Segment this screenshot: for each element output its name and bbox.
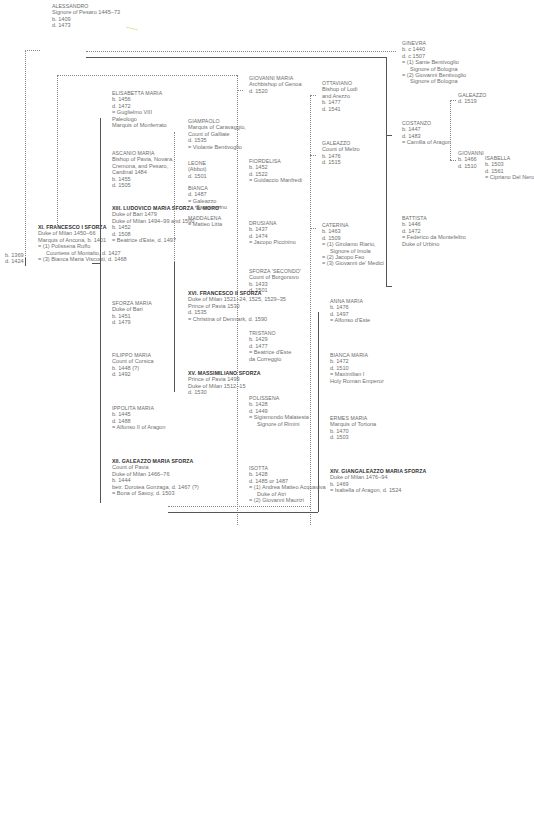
node-costanzo: COSTANZO b. 1447 d. 1483 = Camilla of Ar… xyxy=(402,120,451,146)
spouse: = (1) Andrea Matteo Acquaviva xyxy=(249,484,326,490)
node-elisabetta: ELISABETTA MARIA b. 1456 d. 1472 = Gugli… xyxy=(112,90,167,128)
spouse: Sanseverino xyxy=(188,204,227,210)
node-leone: LEONE (Abbot) d. 1501 xyxy=(188,160,207,179)
node-ascanio: ASCANIO MARIA Bishop of Pavia, Novara, C… xyxy=(112,150,174,188)
node-sforza-maria: SFORZA MARIA Duke of Bari b. 1451 d. 147… xyxy=(112,300,152,326)
node-fiordelisa: FIORDELISA b. 1452 d. 1522 = Guidaccio M… xyxy=(249,158,302,184)
spouse-title: Marquis of Monferrato xyxy=(112,122,167,128)
spouse: = (2) Giovanni Maurizi xyxy=(249,497,326,503)
connector-dotted xyxy=(450,100,451,160)
node-ginevra: GINEVRA b. c 1440 d. c 1507 = (1) Sante … xyxy=(402,40,466,85)
node-tristano: TRISTANO b. 1429 d. 1477 = Beatrice d'Es… xyxy=(249,330,291,362)
title: Count of Borgonovo xyxy=(249,274,301,280)
title: Bishop of Lodi xyxy=(322,86,357,92)
death: d. 1515 xyxy=(322,159,360,165)
connector-dotted xyxy=(25,50,26,258)
death: d. 1479 xyxy=(112,319,152,325)
title: Signore of Pesaro 1445–73 xyxy=(52,9,120,15)
node-ottaviano: OTTAVIANO Bishop of Lodi and Arezzo b. 1… xyxy=(322,80,357,112)
connector xyxy=(174,262,175,392)
spouse-title: Holy Roman Emperor xyxy=(330,378,384,384)
spouse: = Alfonso d'Este xyxy=(330,317,370,323)
node-bianca-maria: BIANCA MARIA b. 1472 d. 1510 = Maximilia… xyxy=(330,352,384,384)
node-giangaleazzo: XIV. GIANGALEAZZO MARIA SFORZA Duke of M… xyxy=(330,468,426,494)
node-galeazzo-1519: GALEAZZO d. 1519 xyxy=(458,92,486,105)
node-massimiliano: XV. MASSIMILIANO SFORZA Prince of Pavia … xyxy=(188,370,261,396)
genealogy-tree: b. 1369 d. 1424 XI. FRANCESCO I SFORZA D… xyxy=(0,0,534,840)
connector-dotted xyxy=(86,51,396,52)
death: d. 1505 xyxy=(112,182,174,188)
connector-dotted xyxy=(450,160,456,161)
connector-dotted xyxy=(310,95,316,96)
node-root: b. 1369 d. 1424 xyxy=(5,252,24,265)
connector xyxy=(386,135,392,136)
node-alessandro: ALESSANDRO Signore of Pesaro 1445–73 b. … xyxy=(52,3,120,29)
title: Marquis of Tortona xyxy=(330,421,376,427)
connector-dotted xyxy=(25,50,40,51)
connector xyxy=(86,57,386,58)
title: Marquis of Caravaggio, xyxy=(188,124,246,130)
connector xyxy=(25,258,26,266)
connector-dotted xyxy=(310,95,311,525)
node-caterina: CATERINA b. 1463 d. 1509 = (1) Girolamo … xyxy=(322,222,384,267)
spouse: = Federico da Montefeltro xyxy=(402,234,466,240)
death: d. 1501 xyxy=(188,173,207,179)
node-isabella: ISABELLA b. 1503 d. 1561 = Cipriano Del … xyxy=(485,155,534,181)
spouse: = Jacopo Piccinino xyxy=(249,239,296,245)
connector xyxy=(386,57,387,287)
node-battista: BATTISTA b. 1446 d. 1472 = Federico da M… xyxy=(402,215,466,247)
death: d. 1510 xyxy=(458,163,484,169)
spouse-title: Duke of Urbino xyxy=(402,241,466,247)
spouse: = Isabella of Aragon, d. 1524 xyxy=(330,487,426,493)
connector-dotted xyxy=(168,506,310,507)
node-maddalena: MADDALENA = Matteo Litta xyxy=(188,215,222,228)
connector-dotted xyxy=(310,228,316,229)
spouse: = (3) Giovanni de' Medici xyxy=(322,260,384,266)
node-giovanni-maria: GIOVANNI MARIA Archbishop of Genoa d. 15… xyxy=(249,75,302,94)
spouse: = Violante Bentivoglio xyxy=(188,144,246,150)
spouse: = (1) Girolamo Riario, xyxy=(322,241,384,247)
spouse: = Beatrice d'Este, d. 1497 xyxy=(112,237,221,243)
node-galeazzo-melzo: GALEAZZO Count of Melzo b. 1476 d. 1515 xyxy=(322,140,360,166)
death: d. 1520 xyxy=(249,88,302,94)
connector xyxy=(168,512,318,513)
title: Count of Corsica xyxy=(112,358,154,364)
spouse: = Bona of Savoy, d. 1503 xyxy=(112,490,199,496)
node-drusiana: DRUSIANA b. 1437 d. 1474 = Jacopo Piccin… xyxy=(249,220,296,246)
death: d. 1424 xyxy=(5,258,24,264)
spouse: da Correggio xyxy=(249,356,291,362)
title: Count of Melzo xyxy=(322,146,360,152)
spouse-title: Signore of Bologna xyxy=(402,78,466,84)
node-galeazzo-maria: XII. GALEAZZO MARIA SFORZA Count of Pavi… xyxy=(112,458,199,496)
highlight-mark xyxy=(126,27,138,30)
title: Bishop of Pavia, Novara, xyxy=(112,156,174,162)
spouse: = (3) Bianca Maria Visconti, d. 1468 xyxy=(38,256,127,262)
node-ippolita: IPPOLITA MARIA b. 1445 d. 1488 = Alfonso… xyxy=(112,405,165,431)
death: d. 1492 xyxy=(112,371,154,377)
death: d. 1541 xyxy=(322,106,357,112)
spouse: = (1) Sante Bentivoglio xyxy=(402,59,466,65)
node-anna-maria: ANNA MARIA b. 1476 d. 1497 = Alfonso d'E… xyxy=(330,298,370,324)
spouse: = Sigismondo Malatesta xyxy=(249,414,309,420)
death: d. 1473 xyxy=(52,22,120,28)
connector-dotted xyxy=(174,132,175,262)
connector xyxy=(100,118,101,503)
spouse: = Christina of Denmark, d. 1590 xyxy=(188,316,286,322)
spouse: = Cipriano Del Nero xyxy=(485,174,534,180)
connector-dotted xyxy=(237,90,243,91)
spouse: = Matteo Litta xyxy=(188,221,222,227)
node-bianca-1487: BIANCA d. 1487 = Galeazzo Sanseverino xyxy=(188,185,227,211)
spouse: = Beatrice d'Este xyxy=(249,349,291,355)
death: d. 1530 xyxy=(188,389,261,395)
spouse: = Camilla of Aragon xyxy=(402,139,451,145)
connector xyxy=(318,312,319,512)
node-giampaolo: GIAMPAOLO Marquis of Caravaggio, Count o… xyxy=(188,118,246,150)
connector xyxy=(386,286,392,287)
node-giovanni-1466: GIOVANNI b. 1466 d. 1510 xyxy=(458,150,484,169)
node-filippo: FILIPPO MARIA Count of Corsica b. 1448 (… xyxy=(112,352,154,378)
node-ermes: ERMES MARIA Marquis of Tortona b. 1470 d… xyxy=(330,415,376,441)
title: (Abbot) xyxy=(188,166,207,172)
connector-dotted xyxy=(57,75,58,225)
node-isotta: ISOTTA b. 1428 d. 1485 or 1487 = (1) And… xyxy=(249,465,326,503)
title: Duke of Milan 1521–24, 1525, 1529–35 xyxy=(188,296,286,302)
